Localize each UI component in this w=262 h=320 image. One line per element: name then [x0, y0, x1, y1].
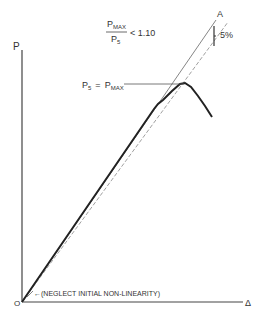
load-deflection-curve	[22, 83, 212, 302]
load-deflection-diagram: P O Δ PMAX P5 < 1.10 A 5% P5=PMAX ←(NEGL…	[0, 0, 262, 320]
svg-text:PMAX: PMAX	[107, 19, 126, 30]
offset-label: 5%	[220, 30, 233, 40]
neglect-note: ←(NEGLECT INITIAL NON-LINEARITY)	[34, 290, 160, 298]
svg-text:P5=PMAX: P5=PMAX	[82, 80, 124, 91]
svg-text:P5: P5	[111, 34, 121, 45]
point-a-label: A	[217, 9, 223, 19]
origin-label: O	[14, 299, 20, 308]
peak-label: P5=PMAX	[82, 80, 124, 91]
y-axis-label: P	[13, 41, 20, 52]
offset-5-percent-line	[22, 22, 228, 302]
criterion-formula: PMAX P5 < 1.10	[106, 19, 155, 45]
x-axis-label: Δ	[245, 298, 251, 308]
svg-text:< 1.10: < 1.10	[130, 28, 155, 38]
